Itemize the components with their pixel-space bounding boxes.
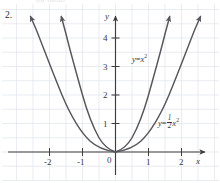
x-tick-label-1: 1 (146, 157, 151, 167)
textbook-figure: for detail 2. (0, 0, 220, 183)
x-tick-label-neg2: -2 (44, 157, 52, 167)
curve-label-half-x-squared-exponent: 2 (176, 117, 179, 123)
curve-label-half-x-squared-equals: = (162, 118, 167, 128)
origin-label: 0 (107, 155, 112, 165)
curve-parabola-x-squared-right (116, 17, 170, 153)
curve-label-half-x-squared: y=12x2 (158, 115, 179, 131)
x-axis-label: x (196, 156, 200, 166)
y-tick-label-4: 4 (103, 33, 108, 43)
y-tick-label-2: 2 (103, 90, 108, 100)
x-tick-label-2: 2 (179, 157, 184, 167)
x-tick-label-neg1: -1 (77, 157, 85, 167)
curve-label-x-squared: y=x2 (132, 53, 147, 64)
y-axis-label: y (105, 11, 109, 21)
curve-label-x-squared-exponent: 2 (144, 53, 147, 59)
y-tick-label-3: 3 (103, 62, 108, 72)
curve-parabola-half-x-squared-right (116, 17, 201, 153)
y-tick-label-1: 1 (103, 119, 108, 129)
